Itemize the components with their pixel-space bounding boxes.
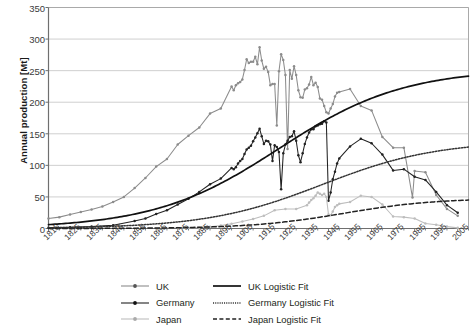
legend-row: Japan Japan Logistic Fit xyxy=(120,311,420,328)
legend-label: UK xyxy=(156,281,169,292)
gridlines xyxy=(49,8,469,197)
legend-row: Germany Germany Logistic Fit xyxy=(120,295,420,312)
dotted-line-icon xyxy=(212,298,242,308)
chart-container: Annual production [Mt] 35030025020015010… xyxy=(0,0,473,329)
axis-lines xyxy=(46,8,469,229)
solid-line-icon xyxy=(212,281,242,291)
series-japan-logistic-fit xyxy=(49,200,469,228)
legend-item-japan[interactable]: Japan xyxy=(120,314,212,325)
dashed-line-icon xyxy=(212,314,242,324)
germany-marker-line-icon xyxy=(120,298,150,308)
data-series-layer xyxy=(47,46,468,229)
series-germany xyxy=(47,120,459,229)
legend-label: Germany Logistic Fit xyxy=(248,297,334,308)
legend-label: Japan xyxy=(156,314,182,325)
legend-label: UK Logistic Fit xyxy=(248,281,308,292)
legend-label: Japan Logistic Fit xyxy=(248,314,321,325)
uk-marker-line-icon xyxy=(120,281,150,291)
chart-legend: UK UK Logistic Fit Germany Germany Lo xyxy=(120,278,420,328)
legend-row: UK UK Logistic Fit xyxy=(120,278,420,295)
legend-item-germany-fit[interactable]: Germany Logistic Fit xyxy=(212,297,334,308)
legend-item-uk[interactable]: UK xyxy=(120,281,212,292)
legend-label: Germany xyxy=(156,297,195,308)
legend-item-uk-fit[interactable]: UK Logistic Fit xyxy=(212,281,308,292)
japan-marker-line-icon xyxy=(120,314,150,324)
series-uk xyxy=(47,46,459,220)
legend-item-germany[interactable]: Germany xyxy=(120,297,212,308)
legend-item-japan-fit[interactable]: Japan Logistic Fit xyxy=(212,314,321,325)
